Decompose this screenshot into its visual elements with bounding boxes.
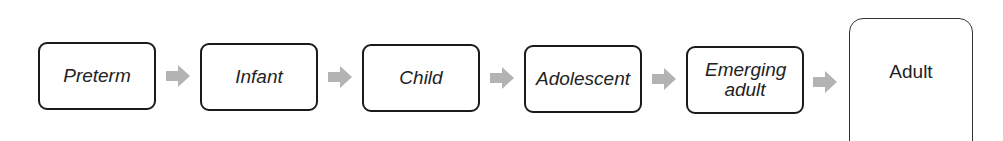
stage-infant: Infant [200, 43, 318, 111]
right-arrow-icon [166, 64, 190, 88]
stage-label: Adult [889, 62, 932, 82]
stage-label: Adolescent [536, 69, 630, 89]
stage-label: Infant [235, 67, 283, 87]
stage-label: Child [399, 68, 442, 88]
right-arrow-icon [328, 65, 352, 89]
stage-label: Emerging adult [705, 60, 785, 100]
stage-adolescent: Adolescent [524, 45, 642, 113]
right-arrow-icon [490, 66, 514, 90]
stage-child: Child [362, 44, 480, 112]
stage-adult: Adult [849, 18, 973, 141]
right-arrow-icon [652, 67, 676, 91]
stage-preterm: Preterm [38, 42, 156, 110]
right-arrow-icon [813, 70, 837, 94]
stage-label: Preterm [63, 66, 131, 86]
stage-emerging-adult: Emerging adult [686, 46, 804, 114]
